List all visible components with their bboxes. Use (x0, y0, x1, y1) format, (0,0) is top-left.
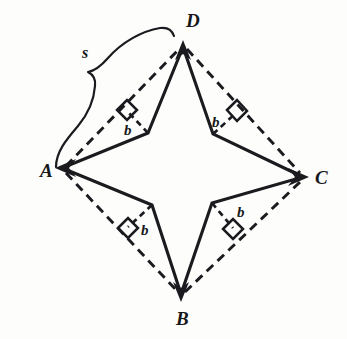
segment-label-b-lower-left: b (141, 222, 149, 238)
perpendicular-segments (128, 112, 236, 228)
perpendicular-b-lower-right (212, 203, 233, 228)
right-angle-markers (117, 100, 247, 239)
vertex-label-D: D (185, 10, 200, 31)
vertex-arrowheads (55, 40, 309, 302)
vertex-label-B: B (175, 308, 189, 329)
geometry-figure: D A C B b b b b s (0, 0, 347, 339)
dashed-side-BC (185, 182, 300, 292)
dashed-side-AD (66, 48, 180, 166)
star-outline (62, 47, 303, 294)
dashed-quadrilateral (66, 48, 300, 292)
segment-label-b-upper-right: b (212, 114, 220, 130)
vertex-label-A: A (39, 160, 53, 181)
vertex-label-C: C (315, 167, 328, 188)
right-angle-marker-lower-right (223, 219, 243, 239)
span-label-s: s (81, 44, 88, 61)
segment-label-b-lower-right: b (237, 204, 245, 220)
diagram-canvas: D A C B b b b b s (0, 0, 347, 339)
solid-star-polygon (62, 47, 303, 294)
segment-label-b-upper-left: b (124, 122, 132, 138)
